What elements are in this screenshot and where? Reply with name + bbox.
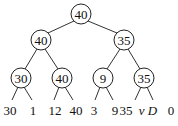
leaf-label-variable: v D (139, 103, 158, 118)
edge-root-left (48, 21, 74, 33)
leaf-label: 12 (49, 103, 62, 118)
tree-node-level2-3: 9 (93, 68, 113, 88)
edge-to-leaf (135, 87, 141, 100)
leaf-label: 35 (120, 103, 133, 118)
leaf-label: 1 (30, 103, 37, 118)
svg-text:35: 35 (118, 33, 131, 48)
svg-text:35: 35 (138, 71, 151, 86)
edge-root-right (88, 21, 117, 33)
tree-node-root: 40 (71, 4, 91, 24)
tree-node-level2-2: 40 (52, 68, 72, 88)
edge-to-leaf (147, 87, 153, 100)
edge-to-leaf (12, 87, 18, 100)
leaf-label: 0 (168, 103, 175, 118)
svg-text:40: 40 (56, 71, 69, 86)
tree-node-level2-1: 30 (11, 68, 31, 88)
leaf-label: 30 (4, 103, 17, 118)
edge-left-leftchild (25, 49, 37, 69)
svg-text:40: 40 (35, 33, 48, 48)
tree-node-level1-right: 35 (114, 30, 134, 50)
tree-node-level1-left: 40 (31, 30, 51, 50)
svg-text:30: 30 (15, 71, 28, 86)
leaf-label: 9 (112, 103, 119, 118)
edge-to-leaf (24, 87, 32, 100)
edge-to-leaf (65, 87, 73, 100)
edge-to-leaf (54, 87, 59, 100)
svg-text:9: 9 (100, 71, 107, 86)
edge-to-leaf (106, 87, 113, 100)
tree-diagram: 40 40 35 30 40 9 35 30 1 12 40 3 9 35 v … (0, 0, 178, 126)
edge-right-rightchild (128, 49, 140, 69)
edge-left-rightchild (45, 49, 58, 69)
svg-text:40: 40 (75, 7, 88, 22)
leaf-label: 3 (91, 103, 98, 118)
tree-node-level2-4: 35 (134, 68, 154, 88)
edge-to-leaf (95, 87, 100, 100)
edge-right-leftchild (107, 49, 120, 69)
leaf-label: 40 (70, 103, 83, 118)
